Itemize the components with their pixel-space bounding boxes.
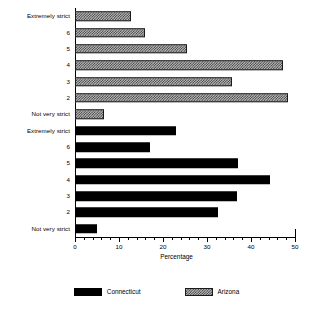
legend-entry-arizona: Arizona xyxy=(185,288,240,296)
bar-connecticut xyxy=(75,126,176,136)
bar-arizona xyxy=(75,93,288,103)
grouped-bar-chart: Extremely strict65432Not very strictExtr… xyxy=(0,0,313,311)
category-label: 2 xyxy=(67,209,71,215)
x-tick-major xyxy=(251,237,252,242)
category-label: 2 xyxy=(67,95,71,101)
category-label: 3 xyxy=(67,193,71,199)
x-tick-minor xyxy=(225,237,226,240)
x-tick-major xyxy=(163,237,164,242)
category-label: 5 xyxy=(67,46,71,52)
category-label: 5 xyxy=(67,160,71,166)
x-tick-minor xyxy=(242,237,243,240)
category-label: Not very strict xyxy=(31,226,70,232)
x-tick-minor xyxy=(216,237,217,240)
x-tick-minor xyxy=(181,237,182,240)
x-tick-minor xyxy=(128,237,129,240)
category-label: Extremely strict xyxy=(27,128,70,134)
category-label: 3 xyxy=(67,78,71,84)
x-tick-major xyxy=(295,237,296,242)
x-tick-minor xyxy=(101,237,102,240)
x-tick-major xyxy=(207,237,208,242)
x-tick-minor xyxy=(84,237,85,240)
bar-arizona xyxy=(75,77,232,87)
bar-connecticut xyxy=(75,142,150,152)
x-axis-title-label: Percentage xyxy=(160,253,193,260)
bar-arizona xyxy=(75,44,187,54)
x-tick-minor xyxy=(269,237,270,240)
x-axis-line xyxy=(75,237,296,238)
x-tick-minor xyxy=(93,237,94,240)
x-tick-minor xyxy=(286,237,287,240)
legend-label-arizona: Arizona xyxy=(218,289,240,295)
legend-label-connecticut: Connecticut xyxy=(107,289,141,295)
x-tick-minor xyxy=(145,237,146,240)
x-tick-minor xyxy=(110,237,111,240)
bar-arizona xyxy=(75,11,131,21)
x-tick-minor xyxy=(172,237,173,240)
x-tick-label: 30 xyxy=(204,244,211,250)
bar-connecticut xyxy=(75,175,270,185)
bar-connecticut xyxy=(75,224,97,234)
category-label: 4 xyxy=(67,177,71,183)
chart-legend: Connecticut Arizona xyxy=(0,288,313,296)
category-label: Extremely strict xyxy=(27,13,70,19)
x-tick-major xyxy=(75,237,76,242)
x-tick-label: 40 xyxy=(248,244,255,250)
category-label: 6 xyxy=(67,29,71,35)
x-tick-label: 10 xyxy=(116,244,123,250)
plot-area: Extremely strict65432Not very strictExtr… xyxy=(75,8,295,237)
x-axis-title: Percentage xyxy=(0,254,313,260)
category-label: 4 xyxy=(67,62,71,68)
bar-arizona xyxy=(75,28,145,38)
x-tick-minor xyxy=(189,237,190,240)
legend-swatch-connecticut-icon xyxy=(74,288,102,296)
x-tick-minor xyxy=(233,237,234,240)
bar-connecticut xyxy=(75,191,237,201)
x-tick-label: 50 xyxy=(292,244,299,250)
category-label: 6 xyxy=(67,144,71,150)
x-tick-minor xyxy=(260,237,261,240)
bar-connecticut xyxy=(75,208,218,218)
x-tick-major xyxy=(119,237,120,242)
x-tick-minor xyxy=(198,237,199,240)
legend-entry-connecticut: Connecticut xyxy=(74,288,141,296)
x-tick-minor xyxy=(137,237,138,240)
x-tick-minor xyxy=(277,237,278,240)
legend-swatch-arizona-icon xyxy=(185,288,213,296)
x-tick-label: 0 xyxy=(73,244,76,250)
category-label: Not very strict xyxy=(31,111,70,117)
x-tick-label: 20 xyxy=(160,244,167,250)
bar-connecticut xyxy=(75,159,238,169)
x-tick-minor xyxy=(154,237,155,240)
bar-arizona xyxy=(75,61,283,71)
bar-arizona xyxy=(75,110,104,120)
